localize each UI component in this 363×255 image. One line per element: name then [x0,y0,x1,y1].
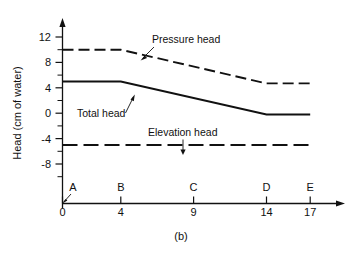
y-tick-label-minus-4: -4 [41,133,51,145]
y-tick-label-4: 4 [45,82,51,94]
y-tick-label-8: 8 [45,56,51,68]
station-label-d: D [263,181,271,193]
x-tick-label-9: 9 [191,206,197,218]
x-tick-label-14: 14 [260,206,272,218]
x-tick-label-4: 4 [118,206,124,218]
station-label-c: C [190,181,198,193]
y-tick-label-minus-8: -8 [41,158,51,170]
station-label-b: B [117,181,124,193]
y-tick-label-12: 12 [39,31,51,43]
y-axis-title: Head (cm of water) [11,66,23,160]
figure-container: 12 8 4 0 -4 -8 Head (cm of water) 0 4 9 … [0,0,363,255]
station-label-e: E [307,181,314,193]
station-label-a: A [69,181,77,193]
x-tick-label-17: 17 [304,206,316,218]
head-distribution-chart: 12 8 4 0 -4 -8 Head (cm of water) 0 4 9 … [0,0,363,255]
series-label-pressure-head: Pressure head [152,33,220,45]
series-label-elevation-head: Elevation head [148,126,218,138]
figure-caption: (b) [174,230,187,242]
y-tick-label-0: 0 [45,107,51,119]
x-tick-label-0: 0 [59,206,65,218]
series-label-total-head: Total head [77,107,126,119]
